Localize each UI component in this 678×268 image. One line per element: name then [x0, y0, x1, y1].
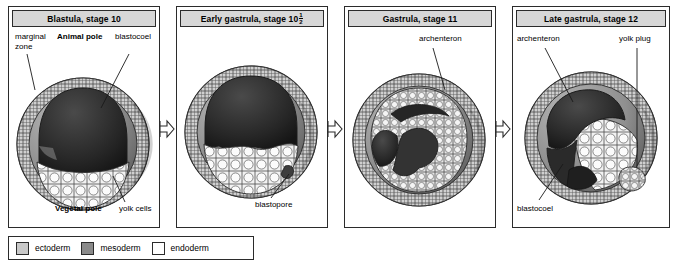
label-yolk-plug: yolk plug [619, 34, 651, 44]
panel-title-early-gastrula: Early gastrula, stage 1012 [180, 10, 324, 27]
label-marginal-zone-line1: marginal [15, 32, 46, 41]
label-marginal-zone-line2: zone [15, 42, 32, 51]
label-archenteron: archenteron [419, 34, 462, 44]
arrow-stage10half-to-stage11 [326, 116, 344, 142]
legend-label-ectoderm: ectoderm [35, 243, 70, 253]
label-blastocoel: blastocoel [517, 204, 553, 214]
gastrula-drawing [345, 28, 497, 228]
legend-swatch-endoderm [152, 242, 165, 255]
blastula-drawing [9, 28, 161, 228]
fraction-denominator: 2 [299, 19, 303, 25]
legend-swatch-mesoderm [81, 242, 94, 255]
arrow-stage10-to-stage10half [158, 116, 176, 142]
panel-title-blastula: Blastula, stage 10 [12, 10, 156, 27]
label-animal-pole: Animal pole [57, 32, 102, 42]
late-gastrula-drawing [513, 28, 671, 228]
legend-label-endoderm: endoderm [171, 243, 209, 253]
panel-blastula-stage-10: Blastula, stage 10 marginal [8, 6, 160, 228]
early-gastrula-drawing [177, 28, 329, 228]
label-marginal-zone: marginal zone [15, 32, 46, 52]
legend-swatch-ectoderm [16, 242, 29, 255]
label-blastopore: blastopore [255, 200, 292, 210]
panel-gastrula-stage-11: Gastrula, stage 11 archenteron [344, 6, 496, 228]
blastula-illustration: marginal zone Animal pole blastocoel Veg… [9, 28, 159, 227]
legend-label-mesoderm: mesoderm [100, 243, 140, 253]
label-archenteron: archenteron [517, 34, 560, 44]
arrow-stage11-to-stage12 [494, 116, 512, 142]
label-vegetal-pole: Vegetal pole [55, 204, 102, 214]
late-gastrula-illustration: archenteron yolk plug blastocoel [513, 28, 669, 227]
label-blastocoel: blastocoel [115, 32, 151, 42]
panel-title-late-gastrula: Late gastrula, stage 12 [516, 10, 666, 27]
panel-title-early-gastrula-prefix: Early gastrula, stage 10 [201, 14, 298, 24]
fraction-numerator: 1 [299, 12, 303, 19]
stage-fraction: 12 [299, 12, 303, 25]
panel-title-gastrula: Gastrula, stage 11 [348, 10, 492, 27]
early-gastrula-illustration: blastopore [177, 28, 327, 227]
label-yolk-cells: yolk cells [119, 204, 151, 214]
gastrula-illustration: archenteron [345, 28, 495, 227]
germ-layer-legend: ectoderm mesoderm endoderm [8, 236, 254, 260]
embryo-development-figure: Blastula, stage 10 marginal [0, 0, 678, 268]
panel-early-gastrula-stage-10-half: Early gastrula, stage 1012 blastopore [176, 6, 328, 228]
panel-late-gastrula-stage-12: Late gastrula, stage 12 archenteron yolk… [512, 6, 670, 228]
